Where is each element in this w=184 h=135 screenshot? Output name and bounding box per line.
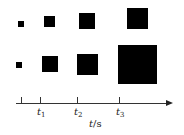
tick-t2 <box>77 97 78 103</box>
row2-square-t3 <box>118 45 157 84</box>
row2-square-0 <box>16 62 22 68</box>
tick-label-t1: t1 <box>37 107 46 120</box>
tick-t1 <box>40 97 41 103</box>
tick-t3 <box>119 97 120 103</box>
tick-origin <box>21 97 22 103</box>
row2-square-t2 <box>77 54 98 75</box>
time-axis <box>16 103 168 104</box>
tick-label-t3: t3 <box>116 107 125 120</box>
row1-square-0 <box>18 21 24 27</box>
row1-square-t3 <box>127 8 148 29</box>
row2-square-t1 <box>42 56 58 72</box>
tick-label-t2: t2 <box>74 107 83 120</box>
row1-square-t1 <box>44 16 55 27</box>
axis-unit-label: t/s <box>89 119 102 129</box>
axis-arrow-icon <box>166 100 173 106</box>
row1-square-t2 <box>79 13 95 29</box>
